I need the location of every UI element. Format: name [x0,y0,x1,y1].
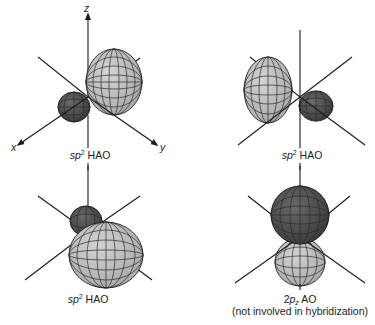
panel-top-left-sp2 [18,14,157,170]
panel-bottom-left-sp2 [25,166,152,288]
orbital-diagram [0,0,375,325]
large-positive-lobe [86,49,142,115]
caption-top-left: sp2 HAO [60,149,120,161]
caption-note: (not involved in hybridization) [230,305,370,317]
z-axis-label: z [84,2,89,14]
y-axis-label: y [160,141,165,153]
upper-negative-lobe [271,186,329,244]
caption-type: HAO [85,149,111,161]
caption-type: HAO [297,149,323,161]
small-negative-lobe [299,91,333,121]
axis-back-right [300,57,352,97]
caption-orbital: sp [70,149,81,161]
caption-bottom-right: 2pz AO (not involved in hybridization) [230,293,370,317]
axis-neg-x-back [38,57,88,97]
caption-orbital: 2p [284,293,296,305]
caption-bottom-left: sp2 HAO [58,293,118,305]
x-axis-label: x [11,141,16,153]
large-positive-lobe [244,57,292,123]
caption-orbital: sp [282,149,293,161]
panel-bottom-right-2pz [235,166,365,290]
caption-type: HAO [83,293,109,305]
caption-type: AO [299,293,317,305]
lower-positive-lobe [275,238,325,286]
caption-line-1: 2pz AO [230,293,370,305]
caption-orbital: sp [68,293,79,305]
large-positive-lobe [69,222,143,288]
caption-top-right: sp2 HAO [272,149,332,161]
